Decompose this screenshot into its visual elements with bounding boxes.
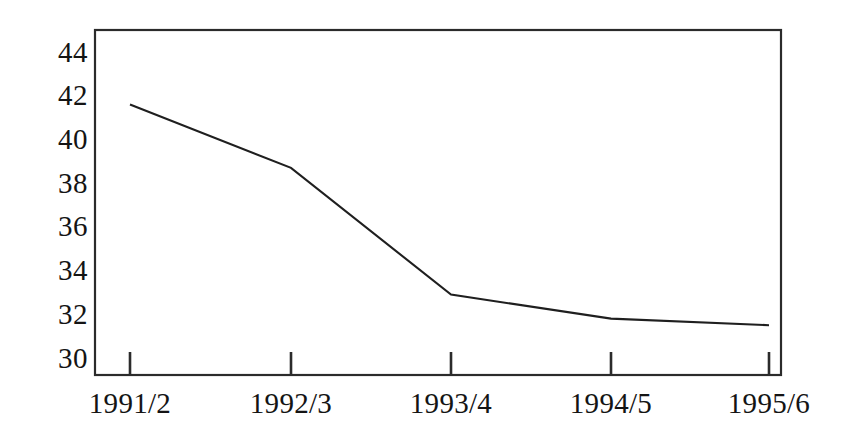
x-axis-labels: 1991/2 1992/3 1993/4 1994/5 1995/6: [0, 0, 857, 444]
x-tick-label-1993-4: 1993/4: [366, 388, 536, 418]
x-tick-label-1995-6: 1995/6: [684, 388, 854, 418]
x-tick-label-1992-3: 1992/3: [206, 388, 376, 418]
x-tick-label-1991-2: 1991/2: [45, 388, 215, 418]
x-tick-label-1994-5: 1994/5: [526, 388, 696, 418]
line-chart-figure: 44 42 40 38 36 34 32 30 1991/2 1992/3 19…: [0, 0, 857, 444]
